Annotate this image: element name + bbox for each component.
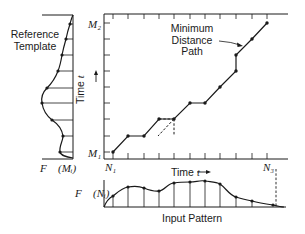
x-axis-label: Time t Time t → bbox=[171, 166, 200, 179]
pattern-points bbox=[111, 179, 274, 206]
n1-label: N₁ bbox=[105, 161, 116, 173]
reference-template-line1: Reference bbox=[5, 28, 65, 40]
input-pattern-label: Input Pattern bbox=[162, 212, 222, 224]
main-y-ticks bbox=[104, 23, 110, 152]
m2-label: M₂ bbox=[88, 18, 101, 30]
y-axis-time-text: Time t bbox=[74, 75, 86, 104]
pattern-curve bbox=[104, 181, 284, 207]
minimum-distance-label: Minimum Distance Path bbox=[165, 23, 219, 58]
annotation-arrowhead bbox=[237, 43, 243, 48]
main-x-ticks-top bbox=[113, 14, 267, 19]
reference-template-label: Reference Template bbox=[5, 28, 65, 52]
minimum-distance-line3: Path bbox=[165, 46, 219, 58]
m1-label: M₁ bbox=[88, 147, 101, 159]
y-axis-label: Time t → Time t bbox=[74, 64, 87, 104]
x-axis-time-text: Time t bbox=[171, 166, 200, 178]
main-x-ticks-bottom bbox=[113, 153, 267, 159]
reference-template-line2: Template bbox=[5, 40, 65, 52]
n3-label: N₃ bbox=[263, 161, 274, 173]
annotation-arrow bbox=[219, 41, 240, 45]
f-m-label: F⃗ (Mᵢ) bbox=[40, 162, 76, 174]
input-pattern-plot bbox=[104, 179, 286, 207]
alternative-paths bbox=[158, 119, 174, 136]
minimum-distance-line1: Minimum bbox=[165, 23, 219, 35]
f-n-label: F⃗ (Nᵢ) bbox=[75, 187, 109, 199]
